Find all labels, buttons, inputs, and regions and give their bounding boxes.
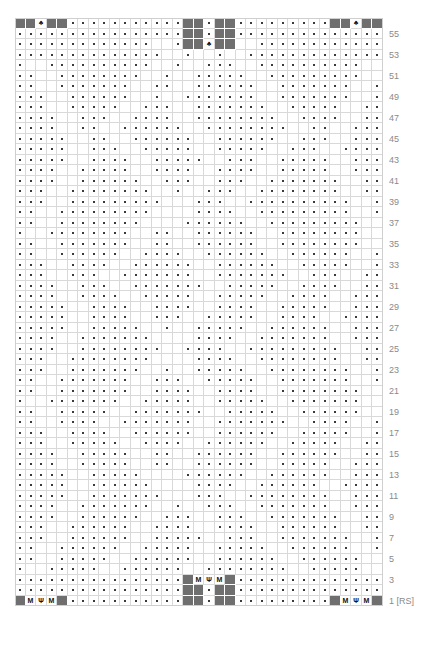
chart-cell[interactable] — [362, 239, 373, 250]
chart-cell[interactable] — [183, 449, 194, 460]
chart-cell[interactable] — [372, 554, 383, 565]
chart-cell[interactable] — [204, 270, 215, 281]
chart-cell[interactable] — [236, 344, 247, 355]
chart-cell[interactable] — [47, 438, 58, 449]
chart-cell-knit[interactable] — [183, 29, 194, 40]
chart-cell[interactable] — [257, 512, 268, 523]
chart-cell[interactable] — [36, 375, 47, 386]
chart-cell[interactable] — [183, 333, 194, 344]
chart-cell[interactable] — [194, 543, 205, 554]
chart-cell[interactable] — [183, 564, 194, 575]
chart-cell[interactable] — [330, 165, 341, 176]
chart-cell[interactable] — [110, 554, 121, 565]
chart-cell[interactable] — [36, 60, 47, 71]
chart-cell[interactable] — [341, 522, 352, 533]
chart-cell[interactable] — [372, 71, 383, 82]
chart-cell[interactable] — [330, 302, 341, 313]
chart-cell[interactable] — [183, 207, 194, 218]
chart-cell[interactable] — [351, 543, 362, 554]
chart-cell[interactable] — [215, 533, 226, 544]
chart-cell[interactable] — [246, 501, 257, 512]
chart-cell[interactable] — [194, 312, 205, 323]
chart-cell[interactable] — [236, 333, 247, 344]
chart-cell[interactable] — [267, 81, 278, 92]
chart-cell[interactable] — [362, 564, 373, 575]
chart-cell[interactable] — [78, 155, 89, 166]
chart-cell[interactable] — [141, 375, 152, 386]
chart-cell[interactable] — [204, 396, 215, 407]
chart-cell[interactable] — [47, 239, 58, 250]
chart-cell[interactable] — [194, 176, 205, 187]
chart-cell[interactable] — [267, 249, 278, 260]
chart-cell[interactable] — [194, 291, 205, 302]
chart-cell-knit[interactable] — [194, 18, 205, 29]
chart-cell[interactable] — [278, 144, 289, 155]
chart-cell[interactable] — [57, 186, 68, 197]
chart-cell[interactable] — [351, 344, 362, 355]
chart-cell-knit[interactable] — [215, 596, 226, 607]
chart-cell[interactable] — [183, 365, 194, 376]
chart-cell[interactable] — [257, 239, 268, 250]
chart-cell[interactable] — [47, 522, 58, 533]
chart-cell[interactable] — [288, 407, 299, 418]
chart-cell[interactable] — [57, 281, 68, 292]
chart-cell[interactable] — [120, 281, 131, 292]
chart-cell[interactable] — [57, 333, 68, 344]
chart-cell[interactable] — [362, 554, 373, 565]
chart-cell[interactable] — [36, 543, 47, 554]
chart-cell[interactable] — [183, 123, 194, 134]
chart-cell[interactable] — [68, 323, 79, 334]
chart-cell[interactable] — [362, 260, 373, 271]
chart-cell[interactable] — [183, 81, 194, 92]
chart-cell[interactable] — [57, 92, 68, 103]
chart-cell[interactable] — [173, 50, 184, 61]
chart-cell[interactable] — [267, 291, 278, 302]
chart-cell[interactable] — [257, 92, 268, 103]
chart-cell[interactable] — [173, 354, 184, 365]
chart-cell[interactable] — [246, 218, 257, 229]
chart-cell[interactable] — [288, 428, 299, 439]
chart-cell[interactable] — [341, 438, 352, 449]
chart-cell[interactable] — [57, 365, 68, 376]
chart-cell-knit[interactable] — [57, 18, 68, 29]
chart-cell[interactable] — [173, 333, 184, 344]
chart-cell[interactable] — [183, 323, 194, 334]
chart-cell[interactable] — [204, 134, 215, 145]
chart-cell-knit[interactable] — [215, 29, 226, 40]
chart-cell[interactable] — [341, 512, 352, 523]
chart-cell[interactable] — [194, 554, 205, 565]
chart-cell[interactable] — [257, 155, 268, 166]
chart-cell[interactable] — [257, 375, 268, 386]
chart-cell[interactable] — [267, 92, 278, 103]
chart-cell[interactable] — [194, 501, 205, 512]
chart-cell[interactable] — [194, 134, 205, 145]
chart-cell[interactable] — [257, 176, 268, 187]
chart-cell-knit[interactable] — [330, 596, 341, 607]
chart-cell[interactable] — [110, 564, 121, 575]
chart-cell[interactable] — [267, 522, 278, 533]
chart-cell[interactable] — [246, 512, 257, 523]
chart-cell[interactable] — [57, 438, 68, 449]
chart-cell[interactable] — [351, 249, 362, 260]
chart-cell[interactable] — [36, 218, 47, 229]
chart-cell[interactable] — [120, 428, 131, 439]
chart-cell[interactable] — [194, 186, 205, 197]
chart-cell[interactable] — [204, 50, 215, 61]
chart-cell[interactable] — [204, 554, 215, 565]
chart-cell[interactable] — [120, 249, 131, 260]
chart-cell[interactable] — [99, 564, 110, 575]
chart-cell[interactable] — [351, 417, 362, 428]
chart-cell[interactable] — [372, 60, 383, 71]
chart-cell[interactable] — [257, 218, 268, 229]
chart-cell[interactable] — [141, 81, 152, 92]
chart-cell[interactable] — [183, 501, 194, 512]
chart-cell[interactable] — [131, 81, 142, 92]
chart-cell[interactable] — [131, 155, 142, 166]
chart-cell[interactable] — [204, 512, 215, 523]
chart-cell[interactable] — [47, 417, 58, 428]
chart-cell[interactable] — [341, 470, 352, 481]
chart-cell[interactable] — [110, 428, 121, 439]
chart-cell[interactable] — [57, 428, 68, 439]
chart-cell[interactable] — [152, 323, 163, 334]
chart-cell[interactable] — [36, 81, 47, 92]
